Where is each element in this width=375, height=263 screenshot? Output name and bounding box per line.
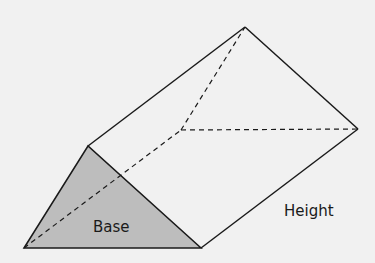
triangular-prism-diagram: Base Height	[0, 0, 375, 263]
height-label: Height	[284, 202, 334, 220]
base-label: Base	[93, 218, 130, 236]
